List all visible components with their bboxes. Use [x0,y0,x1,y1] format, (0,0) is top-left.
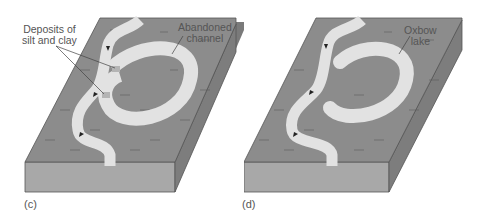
label-abandoned-channel: Abandoned channel [178,22,232,44]
panel-c: Deposits of silt and clay Abandoned chan… [0,0,244,223]
block-front [244,162,389,192]
label-deposits-line2: silt and clay [22,35,77,46]
label-oxbow-lake: Oxbow lake [404,25,437,47]
label-oxbow-line2: lake [404,36,437,47]
label-deposits: Deposits of silt and clay [22,24,77,46]
block-diagram-d [244,0,488,223]
label-abandoned-line2: channel [178,33,232,44]
panel-d: Oxbow lake (d) [244,0,488,223]
block-front [25,162,175,192]
deposit-plug-upper [112,66,120,72]
caption-d: (d) [242,198,255,210]
caption-c: (c) [24,198,37,210]
